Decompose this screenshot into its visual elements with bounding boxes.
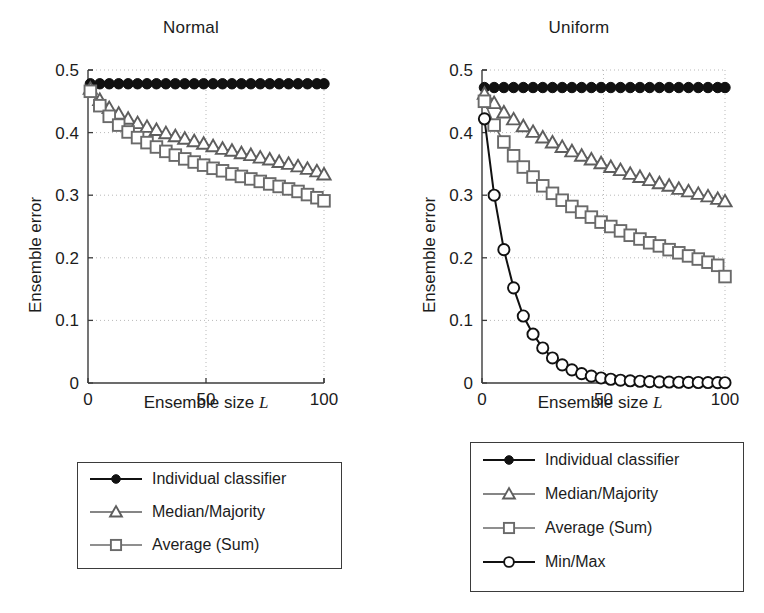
series-marker: [319, 79, 329, 89]
legend-item-label: Median/Majority: [545, 485, 658, 503]
series-marker: [567, 82, 577, 92]
legend-item[interactable]: Average (Sum): [88, 535, 259, 555]
legend-item-label: Average (Sum): [545, 519, 652, 537]
legend-item[interactable]: Median/Majority: [88, 502, 265, 522]
series-marker: [537, 342, 548, 353]
series-marker: [318, 195, 330, 207]
series-marker: [246, 79, 256, 89]
x-tick-label: 100: [711, 390, 739, 409]
legend-sample: [481, 484, 537, 504]
legend-item[interactable]: Individual classifier: [481, 450, 679, 470]
series-marker: [208, 79, 218, 89]
series-marker: [712, 260, 724, 272]
figure-canvas: Normal Ensemble error Ensemble size L 00…: [0, 0, 764, 613]
series-marker: [596, 82, 606, 92]
y-tick-label: 0.4: [449, 124, 473, 143]
x-tick-label: 50: [197, 390, 216, 409]
legend-sample: [88, 502, 144, 522]
legend-sample: [481, 450, 537, 470]
legend-normal: Individual classifierMedian/MajorityAver…: [77, 462, 342, 569]
series-marker: [104, 79, 114, 89]
legend-item-label: Individual classifier: [545, 451, 679, 469]
legend-marker-filled-circle: [88, 469, 144, 489]
y-tick-label: 0.5: [449, 61, 473, 80]
series-marker: [703, 82, 713, 92]
series-marker: [720, 82, 730, 92]
legend-item-label: Average (Sum): [152, 536, 259, 554]
series-marker: [538, 82, 548, 92]
legend-sample: [481, 552, 537, 572]
series-marker: [479, 113, 490, 124]
y-tick-label: 0: [70, 374, 79, 393]
x-tick-label: 0: [83, 390, 92, 409]
series-marker: [142, 79, 152, 89]
series-marker: [161, 79, 171, 89]
series-marker: [498, 136, 510, 148]
series-marker: [123, 79, 133, 89]
legend-marker-square: [481, 518, 537, 538]
panel-uniform: Uniform Ensemble error Ensemble size L 0…: [394, 8, 764, 418]
series-marker: [283, 79, 293, 89]
legend-marker-triangle: [88, 502, 144, 522]
series-marker: [664, 82, 674, 92]
series-marker: [302, 79, 312, 89]
series-marker: [180, 79, 190, 89]
legend-sample: [88, 469, 144, 489]
series-marker: [265, 79, 275, 89]
legend-item-label: Individual classifier: [152, 470, 286, 488]
series-marker: [719, 377, 730, 388]
series-marker: [508, 82, 518, 92]
series-marker: [489, 190, 500, 201]
legend-item-label: Min/Max: [545, 553, 605, 571]
series-marker: [217, 79, 227, 89]
y-tick-label: 0.2: [55, 249, 79, 268]
y-tick-label: 0.3: [55, 186, 79, 205]
series-marker: [528, 82, 538, 92]
series-marker: [625, 82, 635, 92]
series-marker: [236, 79, 246, 89]
y-tick-label: 0.2: [449, 249, 473, 268]
panel-normal: Normal Ensemble error Ensemble size L 00…: [0, 8, 382, 418]
series-marker: [293, 79, 303, 89]
series-marker: [85, 85, 97, 97]
series-marker: [479, 96, 491, 108]
series-marker: [547, 82, 557, 92]
legend-item[interactable]: Individual classifier: [88, 469, 286, 489]
legend-item-label: Median/Majority: [152, 503, 265, 521]
y-tick-label: 0.5: [55, 61, 79, 80]
series-marker: [693, 82, 703, 92]
legend-item[interactable]: Min/Max: [481, 552, 605, 572]
panel-normal-plot: 00.10.20.30.40.5050100: [0, 8, 382, 418]
series-marker: [274, 79, 284, 89]
series-marker: [654, 82, 664, 92]
series-marker: [683, 82, 693, 92]
series-marker: [586, 82, 596, 92]
series-marker: [518, 310, 529, 321]
series-marker: [615, 82, 625, 92]
series-marker: [499, 82, 509, 92]
series-marker: [508, 282, 519, 293]
series-marker: [227, 79, 237, 89]
x-tick-label: 0: [477, 390, 486, 409]
series-marker: [518, 82, 528, 92]
series-marker: [113, 79, 123, 89]
series-marker: [635, 82, 645, 92]
legend-item[interactable]: Median/Majority: [481, 484, 658, 504]
series-marker: [132, 79, 142, 89]
y-tick-label: 0.3: [449, 186, 473, 205]
legend-marker-triangle: [481, 484, 537, 504]
y-tick-label: 0.1: [55, 311, 79, 330]
series-marker: [719, 271, 731, 283]
y-tick-label: 0.4: [55, 124, 79, 143]
legend-item[interactable]: Average (Sum): [481, 518, 652, 538]
series-marker: [489, 82, 499, 92]
panel-uniform-plot: 00.10.20.30.40.5050100: [394, 8, 764, 418]
legend-marker-open-circle: [481, 552, 537, 572]
legend-sample: [481, 518, 537, 538]
legend-uniform: Individual classifierMedian/MajorityAver…: [470, 442, 744, 592]
x-tick-label: 50: [594, 390, 613, 409]
series-marker: [674, 82, 684, 92]
series-marker: [606, 82, 616, 92]
y-tick-label: 0: [464, 374, 473, 393]
series-marker: [576, 82, 586, 92]
